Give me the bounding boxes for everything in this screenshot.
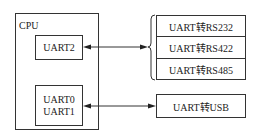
arrowhead-left-icon: [83, 104, 91, 109]
brace-icon: [148, 15, 155, 80]
arrowhead-right-icon: [148, 104, 156, 109]
connectors: [0, 0, 253, 139]
arrowhead-left-icon: [83, 45, 91, 50]
arrowhead-right-icon: [140, 45, 148, 50]
